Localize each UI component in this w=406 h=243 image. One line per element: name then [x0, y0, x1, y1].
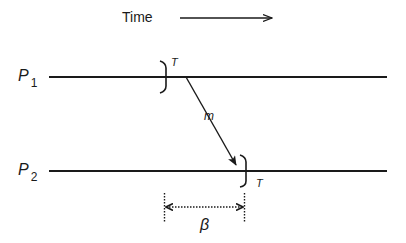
message: m [186, 77, 236, 165]
time-axis: Time [122, 9, 272, 25]
timing-diagram: Time P1 T m P2 T β [0, 0, 406, 243]
message-label: m [204, 109, 214, 123]
time-label: Time [122, 9, 153, 25]
process-p1-subscript: 1 [31, 76, 38, 90]
process-p1-event-label: T [171, 56, 179, 68]
process-p2-label: P2 [18, 161, 38, 184]
interval-beta: β [165, 193, 245, 233]
process-p2-subscript: 2 [31, 170, 38, 184]
process-p1-label: P1 [18, 67, 38, 90]
process-p1: P1 T [18, 56, 387, 93]
interval-label: β [199, 216, 209, 233]
process-p2-event-label: T [256, 177, 264, 189]
process-p1-name: P [18, 67, 29, 84]
process-p2-name: P [18, 161, 29, 178]
process-p2: P2 T [18, 155, 387, 189]
